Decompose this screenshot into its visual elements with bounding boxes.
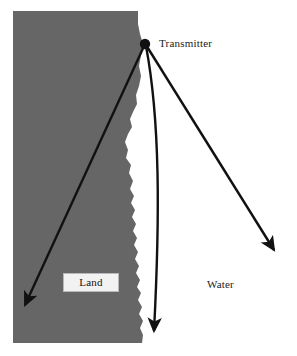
propagation-diagram-svg (0, 0, 297, 356)
land-label-box: Land (63, 273, 119, 292)
water-label: Water (207, 279, 234, 290)
diagram-canvas: Transmitter Land Water (0, 0, 297, 356)
transmitter-node (140, 39, 150, 49)
ray-over-water (146, 45, 274, 250)
ray-along-coast (146, 46, 158, 331)
land-label: Land (79, 277, 102, 288)
land-mass-shape (13, 11, 143, 343)
transmitter-label: Transmitter (159, 38, 212, 49)
